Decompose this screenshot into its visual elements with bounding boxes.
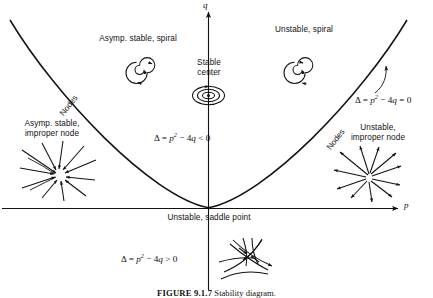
saddle-point-label: Unstable, saddle point [139,213,279,223]
unstable-spiral-label: Unstable, spiral [249,25,359,35]
outside-inequality-expression: Δ = p2 − 4q > 0 [121,252,177,264]
figure-caption-text: Stability diagram. [214,288,276,298]
figure-caption: FIGURE 9.1.7 Stability diagram. [0,288,433,298]
greater-than-zero: > 0 [163,254,177,264]
curve-equation-expression: Δ = p2 − 4q = 0 [355,93,411,105]
inside-inequality-expression: Δ = p2 − 4q < 0 [154,131,210,143]
equals-zero: = 0 [397,95,411,105]
asymp-stable-spiral-label: Asymp. stable, spiral [78,34,198,44]
asymp-stable-improper-node-label-line2: improper node [4,129,100,139]
less-than-zero: < 0 [196,133,210,143]
q-axis-label: q [203,0,208,10]
improper-node-unstable-icon [334,146,401,202]
minus-four: − 4 [378,95,392,105]
figure-caption-number: FIGURE 9.1.7 [157,288,212,298]
curve-leader-arrow [375,66,386,93]
p-axis-label: p [404,200,409,210]
spiral-inward-icon [126,58,155,84]
minus-four: − 4 [144,254,158,264]
saddle-phase-portrait-icon [219,238,272,279]
stable-center-label-line1: Stable [183,58,235,68]
spiral-outward-icon [284,58,313,84]
minus-four: − 4 [177,133,191,143]
asymp-stable-improper-node-label-line1: Asymp. stable, [4,119,100,129]
concentric-ellipses-icon [193,86,225,104]
improper-node-stable-icon [20,141,96,201]
stable-center-label-line2: center [183,68,235,78]
